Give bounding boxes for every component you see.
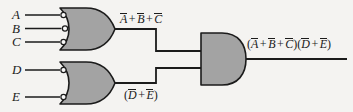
input-label-c: C (12, 35, 21, 48)
circuit-schematic (0, 0, 353, 112)
term-a-complement: A (251, 37, 258, 50)
paren-close: ) (327, 37, 331, 51)
term-e-complement: E (146, 88, 153, 101)
expression-or-gate-bottom: (D+E) (124, 88, 158, 101)
or-gate-bottom-body (60, 62, 115, 104)
plus-operator: + (275, 37, 285, 51)
term-b-complement: B (137, 12, 144, 25)
inversion-bubble-b-icon (62, 26, 67, 31)
term-b-complement: B (268, 37, 275, 50)
term-e-complement: E (320, 37, 327, 50)
logic-circuit-diagram: A B C D E A+B+C (D+E) (A+B+C)(D+E) (0, 0, 353, 112)
plus-operator: + (310, 37, 320, 51)
wire-or-top-to-and (115, 29, 201, 51)
plus-operator: + (258, 37, 268, 51)
inversion-bubble-c-icon (61, 39, 66, 44)
wire-or-bottom-to-and (115, 68, 201, 83)
and-gate-output-body (201, 33, 246, 85)
paren-close: ) (154, 88, 158, 102)
expression-or-gate-top: A+B+C (120, 12, 162, 25)
input-label-e: E (12, 90, 20, 103)
or-gate-top-body (60, 8, 115, 50)
inversion-bubble-d-icon (61, 67, 66, 72)
term-c-complement: C (154, 12, 162, 25)
input-label-a: A (12, 8, 20, 21)
inversion-bubble-a-icon (61, 12, 66, 17)
term-d-complement: D (301, 37, 310, 50)
input-label-b: B (12, 22, 20, 35)
plus-operator: + (144, 12, 154, 26)
expression-circuit-output: (A+B+C)(D+E) (247, 37, 331, 50)
plus-operator: + (137, 88, 147, 102)
term-a-complement: A (120, 12, 127, 25)
plus-operator: + (127, 12, 137, 26)
term-d-complement: D (128, 88, 137, 101)
inversion-bubble-e-icon (61, 94, 66, 99)
term-c-complement: C (285, 37, 293, 50)
input-label-d: D (12, 63, 21, 76)
